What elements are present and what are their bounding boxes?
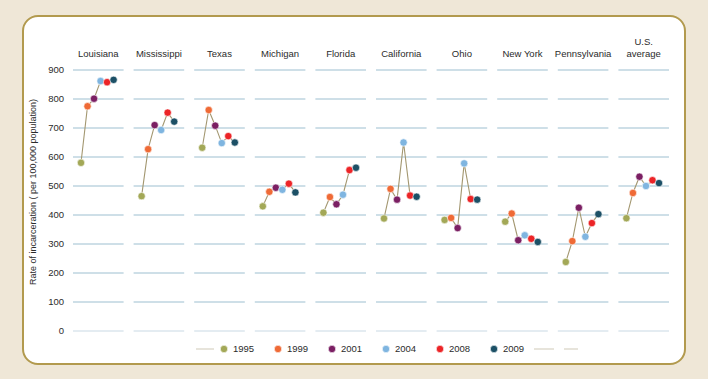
data-point-2001: [454, 224, 461, 231]
data-point-1999: [205, 106, 212, 113]
data-point-2009: [474, 196, 481, 203]
data-point-2009: [595, 210, 602, 217]
panel-texas: Texas: [199, 48, 239, 151]
data-point-2008: [164, 109, 171, 116]
data-point-2004: [642, 182, 649, 189]
data-point-1995: [562, 258, 569, 265]
legend-swatch-2004[interactable]: [382, 345, 389, 352]
data-point-2004: [460, 160, 467, 167]
data-point-2001: [90, 95, 97, 102]
data-point-2004: [582, 233, 589, 240]
data-point-1995: [380, 215, 387, 222]
gridlines-group: [73, 70, 669, 331]
data-point-1999: [266, 188, 273, 195]
chart-plot-area: 0100200300400500600700800900 Rate of inc…: [24, 17, 688, 367]
y-tick-label: 300: [48, 238, 64, 249]
panel-louisiana: Louisiana: [77, 48, 119, 167]
data-point-2009: [655, 179, 662, 186]
legend-label-2004[interactable]: 2004: [395, 343, 416, 354]
data-point-1999: [387, 185, 394, 192]
data-point-2001: [393, 196, 400, 203]
y-tick-label: 500: [48, 180, 64, 191]
data-point-1999: [569, 237, 576, 244]
legend-label-1999[interactable]: 1999: [287, 343, 308, 354]
data-point-1995: [502, 218, 509, 225]
panel-connector-line: [81, 80, 114, 163]
data-point-2004: [521, 232, 528, 239]
y-tick-label: 900: [48, 64, 64, 75]
data-point-1995: [77, 159, 84, 166]
data-point-1995: [320, 209, 327, 216]
data-point-1999: [144, 145, 151, 152]
data-point-2008: [588, 219, 595, 226]
data-point-2001: [636, 173, 643, 180]
legend-label-2008[interactable]: 2008: [449, 343, 470, 354]
data-point-1999: [508, 210, 515, 217]
y-tick-label: 0: [59, 325, 64, 336]
panel-title: Florida: [326, 48, 356, 59]
legend-label-2001[interactable]: 2001: [341, 343, 362, 354]
data-point-2009: [413, 193, 420, 200]
incarceration-rate-small-multiples-chart: 0100200300400500600700800900 Rate of inc…: [24, 17, 688, 367]
panel-title: Louisiana: [78, 48, 119, 59]
data-point-2004: [97, 77, 104, 84]
legend-swatch-1999[interactable]: [274, 345, 281, 352]
data-point-2009: [534, 238, 541, 245]
panel-california: California: [380, 48, 422, 222]
data-point-2009: [352, 164, 359, 171]
panel-title: New York: [502, 48, 542, 59]
data-point-1999: [629, 189, 636, 196]
panel-title: Michigan: [261, 48, 299, 59]
y-tick-label: 200: [48, 267, 64, 278]
data-point-2004: [339, 191, 346, 198]
legend-label-1995[interactable]: 1995: [233, 343, 254, 354]
panel-new-york: New York: [502, 48, 543, 246]
legend-swatch-2008[interactable]: [436, 345, 443, 352]
y-tick-label: 800: [48, 93, 64, 104]
chart-frame: 0100200300400500600700800900 Rate of inc…: [22, 15, 686, 365]
data-point-1995: [199, 144, 206, 151]
chart-legend: 199519992001200420082009: [196, 343, 578, 354]
data-point-1999: [326, 193, 333, 200]
data-point-1995: [138, 192, 145, 199]
y-tick-label: 600: [48, 151, 64, 162]
y-axis-label: Rate of incarceration ( per 100,000 popu…: [28, 99, 38, 285]
legend-swatch-2001[interactable]: [328, 345, 335, 352]
data-point-2009: [171, 118, 178, 125]
data-point-2001: [212, 122, 219, 129]
data-point-1995: [259, 203, 266, 210]
data-point-2004: [157, 126, 164, 133]
data-point-1995: [623, 214, 630, 221]
data-point-2008: [225, 132, 232, 139]
data-point-2001: [333, 201, 340, 208]
data-point-2004: [279, 186, 286, 193]
data-point-2004: [218, 139, 225, 146]
legend-label-2009[interactable]: 2009: [503, 343, 524, 354]
y-axis-tick-labels: 0100200300400500600700800900: [48, 64, 64, 336]
legend-swatch-1995[interactable]: [220, 345, 227, 352]
panel-title: Pennsylvania: [555, 48, 612, 59]
panel-title: Ohio: [452, 48, 472, 59]
data-point-1999: [447, 214, 454, 221]
panel-title: average: [627, 48, 661, 59]
panel-title: California: [381, 48, 422, 59]
panel-title: U.S.: [634, 36, 652, 47]
data-point-2008: [285, 180, 292, 187]
panel-u-s-average: U.S.average: [623, 36, 663, 222]
data-point-1999: [84, 103, 91, 110]
y-tick-label: 100: [48, 296, 64, 307]
data-point-2009: [292, 189, 299, 196]
data-point-2004: [400, 139, 407, 146]
screenshot-root: 0100200300400500600700800900 Rate of inc…: [0, 0, 708, 379]
data-point-2009: [110, 76, 117, 83]
panel-title: Texas: [207, 48, 232, 59]
panel-title: Mississippi: [136, 48, 182, 59]
data-point-2001: [515, 237, 522, 244]
panel-connector-line: [384, 143, 417, 219]
data-point-2008: [406, 192, 413, 199]
data-point-2001: [575, 204, 582, 211]
data-point-2001: [151, 121, 158, 128]
panel-ohio: Ohio: [441, 48, 481, 232]
legend-swatch-2009[interactable]: [490, 345, 497, 352]
panel-mississippi: Mississippi: [136, 48, 182, 200]
